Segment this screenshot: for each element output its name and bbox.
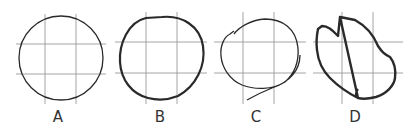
panel-c-shape — [221, 19, 300, 100]
panel-b-shape — [120, 17, 204, 100]
panel-label-b: B — [150, 108, 170, 126]
panel-label-c: C — [246, 108, 266, 126]
panel-label-a: A — [48, 108, 68, 126]
panel-d-shape — [317, 17, 396, 99]
panel-c-grid — [214, 12, 306, 104]
panel-a-grid — [16, 14, 106, 104]
panel-a-circle — [19, 16, 103, 100]
panel-label-d: D — [345, 108, 365, 126]
